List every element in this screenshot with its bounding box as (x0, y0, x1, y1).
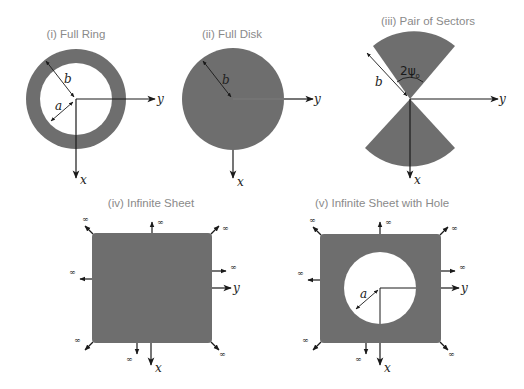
y-axis-label: y (498, 92, 506, 106)
infinity-label-bottom-left: ∞ (302, 336, 309, 345)
infinity-label-left: ∞ (297, 269, 304, 278)
panel-full-disk: (ii) Full Disk b y x (182, 28, 321, 189)
x-axis-label: x (414, 173, 421, 187)
x-axis-label: x (80, 173, 87, 187)
angle-subscript: o (416, 72, 420, 80)
infinity-label-bottom: ∞ (355, 355, 362, 364)
angle-label-text: 2ψ (400, 64, 416, 78)
infinity-label-top: ∞ (385, 218, 392, 227)
infinity-label-bottom: ∞ (126, 355, 133, 364)
infinity-arrow-top-left (313, 227, 321, 235)
infinity-arrow-top-right (440, 227, 448, 235)
infinity-label-right: ∞ (459, 263, 466, 272)
diagram-canvas: (i) Full Ring b a y x (ii) Full Disk b y… (0, 0, 524, 389)
radius-label: b (222, 73, 230, 87)
infinity-arrow-bottom-left (313, 342, 321, 350)
y-axis-label: y (460, 281, 468, 295)
panel-title: (iii) Pair of Sectors (381, 15, 475, 27)
infinity-label-bottom-right: ∞ (448, 350, 455, 359)
y-axis-label: y (232, 281, 240, 295)
infinity-label-bottom-left: ∞ (74, 336, 81, 345)
inner-radius-label: a (55, 99, 62, 113)
hole-radius-label: a (360, 287, 367, 301)
panel-title: (v) Infinite Sheet with Hole (315, 197, 449, 209)
infinity-label-top-left: ∞ (309, 216, 316, 225)
infinity-arrow-bottom-left (85, 342, 93, 350)
infinity-arrow-top-right (211, 226, 219, 234)
y-axis-label: y (156, 92, 164, 106)
infinity-arrow-top-left (85, 226, 93, 234)
panel-title: (iv) Infinite Sheet (108, 197, 195, 209)
sheet-shape (92, 233, 212, 343)
panel-infinite-sheet-with-hole: (v) Infinite Sheet with Hole a ∞ ∞ ∞ ∞ ∞… (297, 197, 468, 375)
infinity-label-top-left: ∞ (82, 215, 89, 224)
infinity-label-right: ∞ (230, 263, 237, 272)
infinity-label-bottom-right: ∞ (219, 350, 226, 359)
infinity-label-top: ∞ (157, 218, 164, 227)
y-axis-label: y (313, 92, 321, 106)
infinity-arrow-bottom-right (440, 342, 448, 350)
outer-radius-label: b (64, 72, 72, 86)
infinity-arrow-bottom-right (211, 342, 219, 350)
panel-title: (i) Full Ring (47, 28, 106, 40)
infinity-label-top-right: ∞ (222, 224, 229, 233)
panel-infinite-sheet: (iv) Infinite Sheet ∞ ∞ ∞ ∞ ∞ ∞ ∞ ∞ y x (69, 197, 240, 375)
radius-label: b (375, 75, 383, 89)
infinity-label-top-right: ∞ (451, 224, 458, 233)
panel-pair-of-sectors: (iii) Pair of Sectors b 2ψo y x (365, 15, 506, 187)
panel-full-ring: (i) Full Ring b a y x (26, 28, 164, 187)
panel-title: (ii) Full Disk (202, 28, 262, 40)
x-axis-label: x (155, 361, 162, 375)
infinity-label-left: ∞ (69, 268, 76, 277)
x-axis-label: x (237, 175, 244, 189)
x-axis-label: x (384, 361, 391, 375)
